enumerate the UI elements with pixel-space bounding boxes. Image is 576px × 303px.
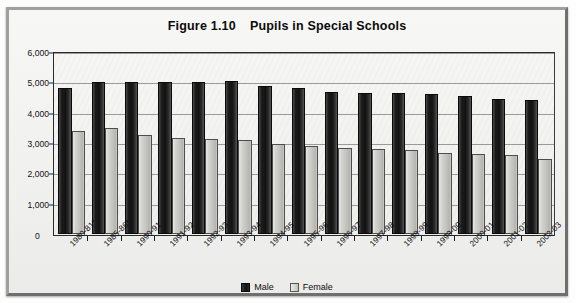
bar-group — [388, 54, 421, 234]
bar-male-1980-81* — [58, 88, 71, 234]
chart-legend: MaleFemale — [9, 282, 565, 292]
figure-page: Figure 1.10Pupils in Special Schools 1,0… — [0, 0, 576, 303]
bar-male-1997-98 — [358, 93, 371, 234]
bar-male-1995-96 — [292, 88, 305, 234]
bar-female-1996-97 — [338, 148, 351, 234]
legend-item-female: Female — [290, 282, 333, 292]
y-axis-tick-mark — [49, 144, 53, 145]
chart-plot-area — [53, 52, 555, 236]
figure-number: Figure 1.10 — [168, 19, 236, 33]
legend-label: Female — [303, 282, 333, 292]
y-axis-tick-label: 1,000 — [3, 200, 49, 210]
legend-swatch-female — [290, 283, 299, 292]
bar-group — [155, 54, 188, 234]
bar-series-container — [55, 54, 553, 234]
bar-female-1990-91 — [138, 135, 151, 234]
bar-male-1994-95 — [258, 86, 271, 234]
bar-female-1985-86* — [105, 128, 118, 234]
y-axis-tick-label: 3,000 — [3, 139, 49, 149]
bar-male-1991-92 — [158, 82, 171, 234]
bar-group — [222, 54, 255, 234]
legend-swatch-male — [241, 283, 250, 292]
bar-group — [55, 54, 88, 234]
chart-plot-wrapper: 1,0002,0003,0004,0005,0006,000 — [53, 52, 555, 236]
bar-male-1998-99 — [392, 93, 405, 234]
x-axis-labels: 1980-81*1985-86*1990-911991-921992-93199… — [53, 238, 555, 284]
bar-group — [188, 54, 221, 234]
y-axis-tick-label: 5,000 — [3, 78, 49, 88]
bar-male-1999-00 — [425, 94, 438, 234]
bar-male-1992-93 — [192, 82, 205, 234]
y-axis-tick-mark — [49, 174, 53, 175]
legend-label: Male — [254, 282, 274, 292]
y-axis-zero-label: 0 — [35, 231, 40, 241]
bar-group — [455, 54, 488, 234]
bar-group — [288, 54, 321, 234]
bar-female-1998-99 — [405, 150, 418, 234]
bar-male-1996-97 — [325, 92, 338, 234]
y-axis-tick-label: 4,000 — [3, 109, 49, 119]
bar-female-2001-02 — [505, 155, 518, 234]
bar-male-2000-01 — [458, 96, 471, 234]
y-axis-tick-mark — [49, 204, 53, 205]
y-axis-tick-label: 6,000 — [3, 48, 49, 58]
bar-female-2002-03 — [538, 159, 551, 234]
bar-group — [522, 54, 555, 234]
bar-group — [122, 54, 155, 234]
figure-inner-panel: Figure 1.10Pupils in Special Schools 1,0… — [9, 10, 565, 293]
bar-female-1994-95 — [272, 144, 285, 234]
page-title: Figure 1.10Pupils in Special Schools — [9, 19, 565, 33]
bar-male-1993-94 — [225, 81, 238, 234]
bar-group — [322, 54, 355, 234]
bar-group — [355, 54, 388, 234]
figure-frame: Figure 1.10Pupils in Special Schools 1,0… — [6, 7, 568, 296]
bar-female-1999-00 — [438, 153, 451, 234]
y-axis-tick-mark — [49, 83, 53, 84]
bar-group — [488, 54, 521, 234]
bar-group — [88, 54, 121, 234]
y-axis-tick-mark — [49, 113, 53, 114]
bar-group — [255, 54, 288, 234]
bar-female-2000-01 — [472, 154, 485, 234]
bar-female-1995-96 — [305, 146, 318, 234]
y-axis-tick-label: 2,000 — [3, 169, 49, 179]
figure-title-text: Pupils in Special Schools — [250, 19, 406, 33]
bar-male-2002-03 — [525, 100, 538, 234]
bar-female-1991-92 — [172, 138, 185, 234]
bar-female-1980-81* — [72, 131, 85, 234]
bar-female-1997-98 — [372, 149, 385, 234]
y-axis-tick-mark — [49, 53, 53, 54]
bar-female-1992-93 — [205, 139, 218, 234]
bar-male-2001-02 — [492, 99, 505, 234]
bar-male-1990-91 — [125, 82, 138, 234]
bar-group — [422, 54, 455, 234]
bar-female-1993-94 — [238, 140, 251, 234]
bar-male-1985-86* — [92, 82, 105, 234]
legend-item-male: Male — [241, 282, 274, 292]
